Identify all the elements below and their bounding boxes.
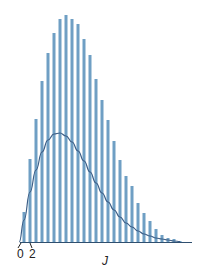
bar — [29, 159, 32, 242]
bar — [107, 120, 110, 242]
bar — [143, 213, 146, 242]
bar — [113, 141, 116, 242]
bar — [65, 15, 68, 242]
bar — [101, 100, 104, 242]
bar-chart — [0, 0, 209, 278]
bar — [47, 53, 50, 242]
bar — [71, 19, 74, 242]
bar — [83, 39, 86, 242]
bar — [59, 19, 62, 242]
x-axis-label: J — [102, 255, 108, 267]
bar — [77, 24, 80, 242]
bar — [95, 79, 98, 242]
bar — [119, 160, 122, 242]
bar — [53, 33, 56, 242]
bar — [41, 81, 44, 242]
x-tick-label-2: 2 — [29, 248, 36, 260]
bar — [155, 229, 158, 242]
bar — [89, 55, 92, 242]
bar — [137, 203, 140, 242]
x-tick-label-0: 0 — [17, 248, 24, 260]
bar-series — [23, 15, 182, 242]
bar — [35, 119, 38, 242]
bar — [149, 221, 152, 242]
bar — [125, 176, 128, 242]
bar — [131, 186, 134, 242]
